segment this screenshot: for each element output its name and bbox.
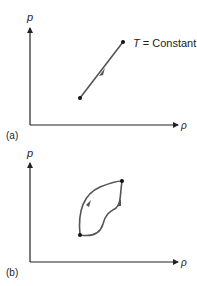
start-point-a bbox=[78, 96, 82, 100]
end-point-b bbox=[120, 179, 124, 183]
annotation-t-constant: T = Constant bbox=[133, 37, 196, 49]
x-axis-label-b: ρ bbox=[180, 257, 187, 268]
panel-label-a: (a) bbox=[6, 130, 18, 141]
end-point-a bbox=[121, 40, 125, 44]
panel-b: p ρ (b) bbox=[6, 147, 187, 278]
start-point-b bbox=[78, 233, 82, 237]
panel-a: p ρ T = Constant (a) bbox=[6, 11, 196, 141]
panel-label-b: (b) bbox=[6, 267, 18, 278]
x-axis-label-a: ρ bbox=[180, 120, 187, 131]
diagram-canvas: p ρ T = Constant (a) p ρ (b) bbox=[0, 0, 197, 286]
y-axis-label-b: p bbox=[26, 147, 33, 159]
y-axis-label-a: p bbox=[26, 11, 33, 23]
lower-path bbox=[80, 181, 122, 236]
isothermal-path bbox=[80, 42, 123, 98]
upper-direction-arrow-icon bbox=[86, 200, 91, 207]
